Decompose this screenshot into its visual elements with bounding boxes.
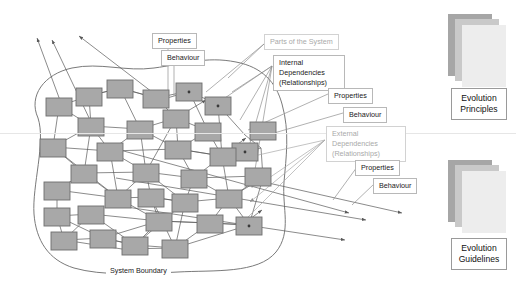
system-part-node bbox=[172, 194, 198, 212]
system-part-node bbox=[107, 80, 133, 98]
callout-parts-of-the-system[interactable]: Parts of the System bbox=[264, 34, 339, 50]
system-network-graphic bbox=[0, 0, 516, 291]
system-part-node bbox=[71, 165, 97, 183]
evolution-guidelines-line2: Guidelines bbox=[454, 254, 504, 265]
system-part-node bbox=[143, 90, 169, 108]
document-sheet-front bbox=[462, 25, 506, 87]
system-part-node bbox=[76, 88, 102, 106]
callout-behaviour-low[interactable]: Behaviour bbox=[373, 178, 417, 194]
evolution-principles-line1: Evolution bbox=[454, 93, 504, 104]
callout-properties-mid[interactable]: Properties bbox=[328, 88, 373, 104]
callout-properties-top[interactable]: Properties bbox=[152, 33, 197, 49]
system-part-node bbox=[90, 230, 116, 248]
system-part-node bbox=[122, 237, 148, 255]
callout-behaviour-top[interactable]: Behaviour bbox=[161, 50, 205, 66]
document-sheet-front bbox=[462, 171, 506, 233]
evolution-guidelines-line1: Evolution bbox=[454, 243, 504, 254]
system-part-node bbox=[46, 98, 72, 116]
system-part-node bbox=[210, 148, 236, 166]
system-part-node bbox=[181, 170, 207, 188]
system-part-node bbox=[165, 141, 191, 159]
system-nodes bbox=[40, 80, 276, 258]
system-part-node bbox=[97, 143, 123, 161]
system-part-node bbox=[197, 215, 223, 233]
system-part-node bbox=[195, 123, 221, 141]
system-boundary-label: System Boundary bbox=[106, 265, 171, 276]
system-part-node bbox=[216, 190, 242, 208]
callout-external-dependencies[interactable]: External Dependencies (Relationships) bbox=[326, 126, 406, 162]
system-part-node bbox=[146, 213, 172, 231]
callout-properties-low[interactable]: Properties bbox=[355, 160, 400, 176]
page-rule bbox=[0, 133, 516, 134]
system-part-node bbox=[105, 190, 131, 208]
node-anchor-dot bbox=[248, 225, 251, 228]
system-part-node bbox=[162, 240, 188, 258]
node-anchor-dot bbox=[244, 151, 247, 154]
evolution-guidelines-label: Evolution Guidelines bbox=[451, 238, 507, 270]
system-part-node bbox=[40, 139, 66, 157]
callout-behaviour-mid[interactable]: Behaviour bbox=[343, 107, 387, 123]
system-part-node bbox=[44, 208, 70, 226]
diagram-canvas: System Boundary Properties Behaviour Par… bbox=[0, 0, 516, 291]
evolution-principles-line2: Principles bbox=[454, 104, 504, 115]
system-part-node bbox=[138, 189, 164, 207]
system-part-node bbox=[133, 164, 159, 182]
system-part-node bbox=[127, 121, 153, 139]
system-part-node bbox=[78, 206, 104, 224]
system-part-node bbox=[163, 110, 189, 128]
node-anchor-dot bbox=[217, 105, 220, 108]
system-part-node bbox=[250, 122, 276, 140]
callout-internal-dependencies[interactable]: Internal Dependencies (Relationships) bbox=[273, 55, 345, 91]
system-part-node bbox=[245, 168, 271, 186]
node-anchor-dot bbox=[188, 91, 191, 94]
evolution-principles-label: Evolution Principles bbox=[451, 88, 507, 120]
system-part-node bbox=[44, 182, 70, 200]
system-part-node bbox=[51, 232, 77, 250]
